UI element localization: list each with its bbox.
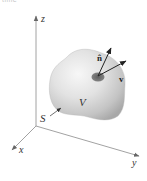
control-volume-blob (49, 49, 125, 120)
surface-pointer-arrow (50, 108, 61, 116)
normal-vector-label: n̂ (97, 53, 102, 63)
x-axis (12, 126, 36, 150)
surface-label: S (40, 112, 46, 124)
y-axis-label: y (131, 157, 137, 168)
control-volume-diagram: z x y n̂ v V S (0, 0, 147, 181)
z-axis-label: z (40, 13, 45, 24)
velocity-vector-label: v (119, 74, 124, 84)
y-axis (36, 126, 139, 156)
x-axis-label: x (18, 144, 24, 155)
